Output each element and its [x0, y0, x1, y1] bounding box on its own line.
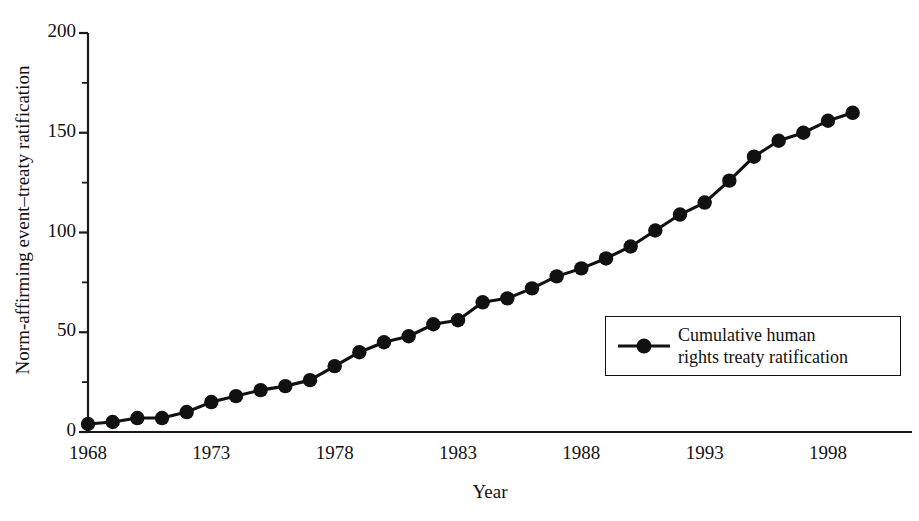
x-tick-label: 1978: [316, 442, 354, 464]
legend-entry-label: Cumulative human rights treaty ratificat…: [672, 324, 848, 368]
y-tick-label: 50: [57, 319, 76, 341]
data-point-marker: [525, 281, 539, 295]
y-tick-label: 100: [48, 220, 77, 242]
data-point-marker: [253, 383, 267, 397]
data-point-marker: [771, 134, 785, 148]
x-tick-label: 1983: [439, 442, 477, 464]
data-point-marker: [105, 415, 119, 429]
y-tick-label: 200: [48, 20, 77, 42]
y-axis-title-container: Norm-affirming event–treaty ratification: [0, 0, 46, 440]
y-axis-title: Norm-affirming event–treaty ratification: [12, 66, 34, 375]
x-tick-label: 1973: [192, 442, 230, 464]
data-point-marker: [278, 379, 292, 393]
y-tick-label: 150: [48, 120, 77, 142]
data-point-marker: [648, 223, 662, 237]
data-point-marker: [500, 291, 514, 305]
y-axis-major-ticks: [79, 33, 88, 432]
data-point-marker: [697, 195, 711, 209]
data-point-marker: [475, 295, 489, 309]
data-point-marker: [303, 373, 317, 387]
x-axis-title: Year: [472, 481, 507, 503]
data-point-marker: [130, 411, 144, 425]
data-point-marker: [845, 106, 859, 120]
series-line: [88, 113, 853, 424]
series-markers: [81, 106, 860, 432]
data-point-marker: [722, 173, 736, 187]
data-point-marker: [401, 329, 415, 343]
y-tick-label: 0: [67, 419, 77, 441]
data-point-marker: [204, 395, 218, 409]
data-point-marker: [155, 411, 169, 425]
data-point-marker: [574, 261, 588, 275]
data-point-marker: [747, 149, 761, 163]
data-point-marker: [599, 251, 613, 265]
data-point-marker: [623, 239, 637, 253]
data-point-marker: [352, 345, 366, 359]
data-point-marker: [673, 207, 687, 221]
data-point-marker: [821, 114, 835, 128]
data-point-marker: [796, 126, 810, 140]
x-tick-label: 1988: [562, 442, 600, 464]
data-point-marker: [327, 359, 341, 373]
data-point-marker: [426, 317, 440, 331]
data-point-marker: [179, 405, 193, 419]
chart-legend: Cumulative human rights treaty ratificat…: [605, 316, 901, 376]
legend-marker-icon: [616, 331, 672, 361]
data-point-marker: [549, 269, 563, 283]
data-point-marker: [229, 389, 243, 403]
x-tick-label: 1998: [809, 442, 847, 464]
data-point-marker: [451, 313, 465, 327]
x-tick-label: 1968: [69, 442, 107, 464]
chart-figure: Norm-affirming event–treaty ratification…: [0, 0, 919, 521]
data-point-marker: [377, 335, 391, 349]
data-point-marker: [81, 417, 95, 431]
x-tick-label: 1993: [686, 442, 724, 464]
